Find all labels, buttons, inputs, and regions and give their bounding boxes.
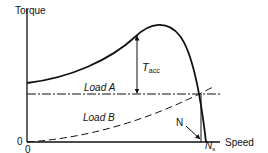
load-b-curve xyxy=(27,87,213,142)
y-axis-label: Torque xyxy=(15,5,46,16)
operating-point-label: N xyxy=(176,117,183,128)
torque-speed-diagram: Torque 0 0 Speed Ns Tacc Load A Load B N xyxy=(0,0,268,153)
x-axis-label: Speed xyxy=(225,137,254,148)
load-a-label: Load A xyxy=(84,82,116,93)
x-origin-label: 0 xyxy=(25,144,31,153)
accel-torque-label: Tacc xyxy=(142,61,160,74)
operating-point-arrow xyxy=(186,126,200,139)
load-b-label: Load B xyxy=(83,112,115,123)
y-origin-label: 0 xyxy=(17,136,23,147)
